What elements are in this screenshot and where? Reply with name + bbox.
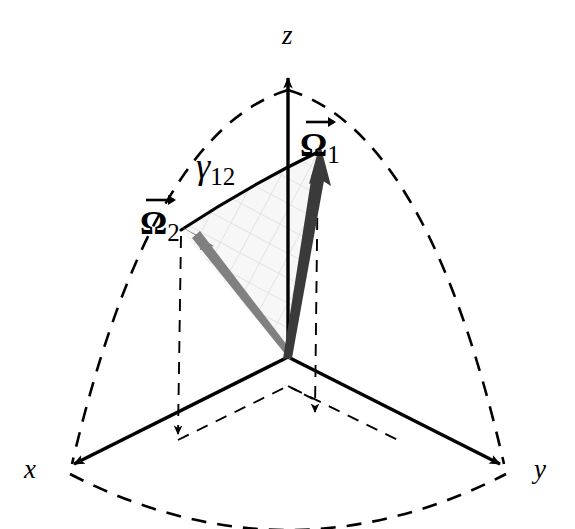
omega2-label: Ω2	[140, 206, 180, 245]
omega1-subscript: 1	[327, 141, 340, 168]
diagram-canvas	[0, 0, 575, 529]
equator-xy-arc	[70, 474, 506, 529]
omega2-symbol: Ω	[140, 204, 167, 241]
gamma-symbol: γ	[196, 146, 210, 186]
x-axis-label: x	[24, 456, 36, 483]
spherical-vector-diagram: z x y Ω1 Ω2 γ12	[0, 0, 575, 529]
omega2-drop-line	[178, 236, 181, 434]
omega1-label: Ω1	[300, 128, 340, 167]
y-axis	[288, 357, 500, 464]
gamma12-label: γ12	[196, 148, 235, 189]
y-axis-label: y	[534, 456, 546, 483]
z-axis-label: z	[282, 22, 293, 49]
omega2-subscript: 2	[167, 219, 180, 246]
omega1-symbol: Ω	[300, 126, 327, 163]
coordinate-axes	[74, 78, 500, 464]
gamma-subscript: 12	[210, 163, 235, 190]
x-axis	[74, 357, 288, 464]
